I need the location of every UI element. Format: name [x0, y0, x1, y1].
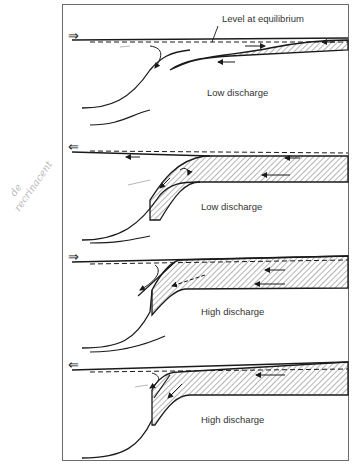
- estuary-diagram: [0, 0, 353, 465]
- panel-2-label: Low discharge: [201, 201, 262, 212]
- equilibrium-level-label: Level at equilibrium: [222, 13, 304, 24]
- flow-arrow-icon-panel-3: ⇒: [68, 249, 79, 264]
- flow-arrow-icon-panel-2: ⇐: [68, 139, 79, 154]
- flow-arrow-icon-panel-1: ⇒: [68, 28, 79, 43]
- panel-4-label: High discharge: [201, 414, 264, 425]
- panel-1-label: Low discharge: [207, 87, 268, 98]
- panel-4: [72, 336, 348, 458]
- panel-3-label: High discharge: [201, 306, 264, 317]
- flow-arrow-icon-panel-4: ⇐: [68, 357, 79, 372]
- panel-2: [72, 110, 348, 240]
- panel-3: [72, 236, 348, 348]
